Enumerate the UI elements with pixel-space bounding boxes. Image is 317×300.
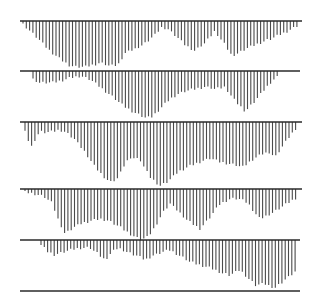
- chart-panels: [20, 21, 302, 291]
- hanging-line-chart: [0, 0, 317, 300]
- panel-4: [20, 189, 302, 240]
- panel-2: [20, 71, 300, 118]
- panel-1: [20, 21, 302, 68]
- panel-5: [20, 240, 300, 291]
- panel-3: [20, 122, 302, 186]
